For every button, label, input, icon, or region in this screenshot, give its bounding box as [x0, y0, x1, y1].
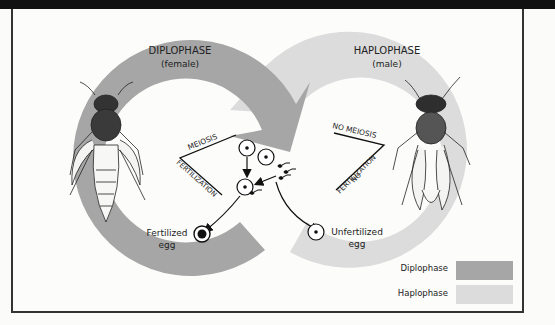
fertilized-egg-icon: [194, 226, 210, 242]
lifecycle-diagram: DIPLOPHASE (female) HAPLOPHASE (male) ME…: [0, 0, 555, 325]
haplophase-subtitle: (male): [372, 59, 401, 69]
meiosis-fertilization-bracket: MEIOSIS FERTILIZATION: [175, 132, 236, 199]
fertilization-label: FERTILIZATION: [175, 159, 218, 199]
fertilized-egg-label: Fertilized: [147, 228, 188, 238]
fertilized-egg-label-2: egg: [159, 240, 176, 250]
legend-diplophase-swatch: [456, 261, 513, 280]
sperm-icon: [250, 163, 296, 195]
unfertilized-egg-icon: [308, 224, 324, 240]
process-arrows: [205, 157, 318, 231]
legend-haplophase-swatch: [456, 285, 513, 304]
legend-haplophase-label: Haplophase: [398, 288, 448, 298]
no-meiosis-bracket: NO MEIOSIS NO FERTILIZATION: [332, 121, 384, 195]
unfertilized-egg-label-2: egg: [349, 239, 366, 249]
sperm-cell-nucleus: [258, 149, 274, 165]
unfertilized-egg-label: Unfertilized: [331, 227, 383, 237]
legend-diplophase-label: Diplophase: [400, 263, 448, 273]
no-fertilization-label: FERTILIZATION: [336, 154, 378, 196]
diplophase-subtitle: (female): [161, 59, 199, 69]
haplophase-title: HAPLOPHASE: [354, 45, 421, 56]
diplophase-title: DIPLOPHASE: [149, 45, 212, 56]
legend: Diplophase Haplophase: [398, 261, 513, 304]
egg-cell: [239, 140, 255, 156]
